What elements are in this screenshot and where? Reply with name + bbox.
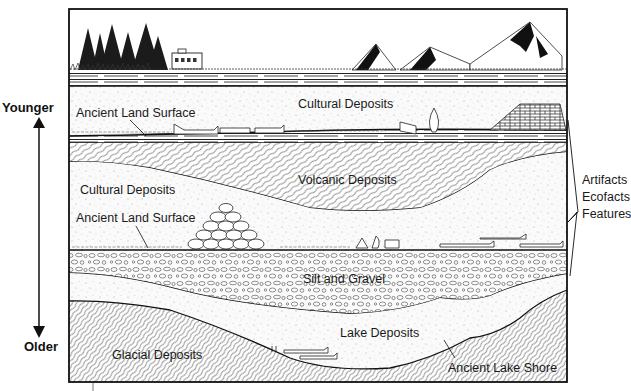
label-older: Older bbox=[24, 339, 58, 354]
label-volcanic-deposits: Volcanic Deposits bbox=[298, 173, 397, 187]
timeline-axis: Younger Older bbox=[2, 100, 58, 354]
stratigraphy-diagram: Cultural Deposits Ancient Land Surface V… bbox=[0, 0, 631, 391]
bracket-item-features: Features bbox=[582, 207, 631, 221]
bracket-icon bbox=[568, 120, 578, 276]
label-ancient-land-surface-lower: Ancient Land Surface bbox=[76, 211, 196, 225]
label-glacial-deposits: Glacial Deposits bbox=[112, 348, 202, 362]
label-ancient-land-surface-upper: Ancient Land Surface bbox=[76, 106, 196, 120]
label-lake-deposits: Lake Deposits bbox=[340, 326, 419, 340]
label-cultural-deposits-upper: Cultural Deposits bbox=[298, 97, 393, 111]
bracket-item-artifacts: Artifacts bbox=[582, 173, 627, 187]
bracket-item-ecofacts: Ecofacts bbox=[582, 190, 630, 204]
arrow-down-icon bbox=[33, 326, 45, 338]
evidence-bracket: Artifacts Ecofacts Features bbox=[568, 120, 631, 276]
label-younger: Younger bbox=[2, 100, 54, 115]
label-cultural-deposits-lower: Cultural Deposits bbox=[80, 183, 175, 197]
label-ancient-lake-shore: Ancient Lake Shore bbox=[448, 361, 557, 375]
topsoil-layer bbox=[69, 71, 567, 87]
label-silt-and-gravel: Silt and Gravel bbox=[303, 272, 385, 286]
arrow-up-icon bbox=[33, 117, 45, 128]
